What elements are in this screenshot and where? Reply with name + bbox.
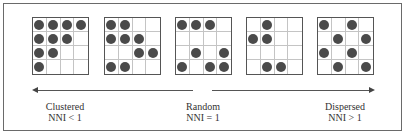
grid-cell — [288, 18, 302, 32]
point-dot-icon — [205, 20, 215, 30]
grid-cell — [275, 46, 289, 60]
point-dot-icon — [34, 62, 44, 72]
point-dot-icon — [134, 48, 144, 58]
grid-cell — [74, 18, 88, 32]
grid-cell — [146, 46, 160, 60]
point-dot-icon — [48, 48, 58, 58]
arrow-right-line — [212, 90, 370, 91]
point-dot-icon — [106, 34, 116, 44]
point-dot-icon — [347, 20, 357, 30]
point-dot-icon — [106, 20, 116, 30]
point-dot-icon — [48, 20, 58, 30]
point-dot-icon — [177, 20, 187, 30]
point-dot-icon — [361, 34, 371, 44]
grid-cell — [247, 46, 261, 60]
point-dot-icon — [62, 34, 72, 44]
grid-cell — [247, 32, 261, 46]
grid-cell — [275, 18, 289, 32]
grid-cell — [190, 18, 204, 32]
grid-cell — [318, 60, 332, 74]
point-dot-icon — [76, 20, 86, 30]
grid-cell — [359, 46, 373, 60]
point-dot-icon — [219, 48, 229, 58]
point-dot-icon — [120, 20, 130, 30]
arrow-right-head-icon — [369, 87, 375, 93]
point-dot-icon — [48, 34, 58, 44]
grid-cell — [346, 32, 360, 46]
grid-cell — [332, 46, 346, 60]
grid-cell — [74, 60, 88, 74]
grid-cell — [261, 32, 275, 46]
point-dot-icon — [34, 20, 44, 30]
grid-cell — [176, 46, 190, 60]
clustered-pattern — [32, 17, 89, 75]
grid-cell — [261, 18, 275, 32]
grid-cell — [332, 32, 346, 46]
label-dispersed-title: Dispersed — [305, 101, 385, 112]
grid-cell — [176, 60, 190, 74]
grid-cell — [217, 32, 231, 46]
point-dot-icon — [106, 62, 116, 72]
point-dot-icon — [262, 62, 272, 72]
grid-cell — [146, 60, 160, 74]
grid-cell — [33, 32, 47, 46]
grid-cell — [332, 18, 346, 32]
grid-cell — [190, 46, 204, 60]
grid-cell — [204, 46, 218, 60]
semi-dispersed-pattern — [246, 17, 303, 75]
grid-cell — [47, 60, 61, 74]
grid-cell — [359, 32, 373, 46]
grid-cell — [61, 32, 75, 46]
grid-cell — [204, 18, 218, 32]
arrow-left-line — [37, 90, 193, 91]
point-dot-icon — [62, 20, 72, 30]
point-dot-icon — [191, 20, 201, 30]
point-dot-icon — [120, 62, 130, 72]
grid-cell — [176, 32, 190, 46]
point-dot-icon — [219, 62, 229, 72]
grid-cell — [275, 32, 289, 46]
grid-cell — [318, 32, 332, 46]
point-dot-icon — [333, 34, 343, 44]
random-pattern — [175, 17, 232, 75]
label-clustered-title: Clustered — [25, 101, 105, 112]
point-dot-icon — [191, 48, 201, 58]
point-dot-icon — [148, 48, 158, 58]
point-dot-icon — [361, 62, 371, 72]
grid-cell — [146, 18, 160, 32]
grid-cell — [359, 18, 373, 32]
grid-cell — [217, 60, 231, 74]
grid-cell — [133, 32, 147, 46]
grid-cell — [119, 46, 133, 60]
grid-cell — [247, 60, 261, 74]
point-dot-icon — [34, 34, 44, 44]
label-random-title: Random — [163, 101, 243, 112]
point-dot-icon — [262, 20, 272, 30]
point-dot-icon — [319, 20, 329, 30]
grid-cell — [318, 46, 332, 60]
grid-cell — [261, 60, 275, 74]
grid-cell — [119, 18, 133, 32]
point-dot-icon — [333, 62, 343, 72]
grid-cell — [217, 46, 231, 60]
point-dot-icon — [205, 62, 215, 72]
grid-cell — [346, 60, 360, 74]
grid-cell — [61, 60, 75, 74]
label-dispersed-formula: NNI > 1 — [305, 112, 385, 123]
grid-cell — [176, 18, 190, 32]
grid-cell — [217, 18, 231, 32]
grid-cell — [47, 18, 61, 32]
grid-cell — [74, 32, 88, 46]
point-dot-icon — [120, 34, 130, 44]
arrow-left-head-icon — [32, 87, 38, 93]
grid-cell — [47, 46, 61, 60]
grid-cell — [133, 46, 147, 60]
grid-cell — [61, 46, 75, 60]
grid-cell — [346, 46, 360, 60]
grid-cell — [261, 46, 275, 60]
point-dot-icon — [262, 34, 272, 44]
grid-cell — [288, 60, 302, 74]
grid-cell — [275, 60, 289, 74]
grid-cell — [288, 46, 302, 60]
grid-cell — [247, 18, 261, 32]
